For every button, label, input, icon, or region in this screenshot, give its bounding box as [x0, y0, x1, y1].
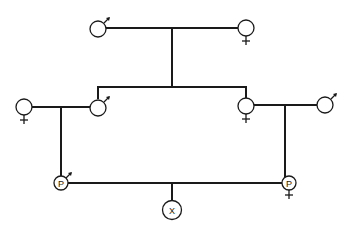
in-law-female-node	[16, 99, 32, 124]
daughter-node	[238, 98, 254, 123]
son-node	[90, 96, 110, 116]
pedigree-diagram: P P X	[0, 0, 345, 235]
parent-male-node: P	[54, 172, 72, 190]
in-law-male-node	[317, 93, 337, 113]
offspring-node: X	[163, 201, 182, 220]
parent-female-node: P	[282, 176, 296, 199]
parent-female-label: P	[286, 179, 292, 189]
parent-male-label: P	[58, 179, 64, 189]
offspring-label: X	[169, 206, 175, 216]
gp-female-node	[238, 20, 254, 45]
